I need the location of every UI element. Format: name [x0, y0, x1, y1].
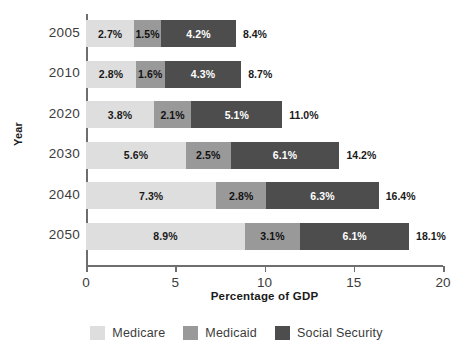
bar-segment-medicaid: 2.8%: [216, 182, 266, 209]
bar-row: 5.6%2.5%6.1%14.2%: [86, 142, 443, 169]
legend-label: Medicare: [112, 326, 165, 340]
bar-segment-medicare: 5.6%: [86, 142, 186, 169]
y-axis-tick-label: 2005: [10, 25, 80, 40]
x-axis-tick-label: 0: [66, 275, 106, 290]
bar-segment-medicare: 7.3%: [86, 182, 216, 209]
legend-swatch-icon: [275, 326, 290, 340]
legend-label: Medicaid: [205, 326, 257, 340]
bar-segment-medicare: 2.7%: [86, 20, 134, 47]
bar-segment-medicare: 2.8%: [86, 61, 136, 88]
bar-segment-social-security: 6.1%: [231, 142, 340, 169]
x-axis-tick-label: 10: [245, 275, 285, 290]
bar-row: 8.9%3.1%6.1%18.1%: [86, 223, 443, 250]
y-axis-tick-label: 2030: [10, 146, 80, 161]
chart-legend: MedicareMedicaidSocial Security: [0, 326, 473, 340]
legend-item: Social Security: [275, 326, 383, 340]
y-axis-tick-label: 2050: [10, 227, 80, 242]
bar-segment-medicaid: 2.5%: [186, 142, 231, 169]
plot-area: 051015202.7%1.5%4.2%8.4%2.8%1.6%4.3%8.7%…: [86, 14, 443, 265]
x-axis-tick-mark: [354, 266, 356, 272]
bar-segment-social-security: 4.3%: [165, 61, 242, 88]
x-axis-tick-label: 5: [155, 275, 195, 290]
bar-segment-social-security: 5.1%: [191, 101, 282, 128]
bar-row: 2.8%1.6%4.3%8.7%: [86, 61, 443, 88]
bar-segment-social-security: 6.1%: [300, 223, 409, 250]
x-axis-tick-mark: [86, 266, 88, 272]
bar-total-label: 11.0%: [282, 101, 318, 128]
bar-segment-medicare: 3.8%: [86, 101, 154, 128]
bar-segment-social-security: 6.3%: [266, 182, 378, 209]
y-axis-tick-labels: 200520102020203020402050: [8, 0, 80, 356]
x-axis-tick-label: 20: [423, 275, 463, 290]
legend-item: Medicare: [90, 326, 165, 340]
bar-total-label: 14.2%: [339, 142, 376, 169]
bar-total-label: 8.4%: [236, 20, 267, 47]
bar-row: 2.7%1.5%4.2%8.4%: [86, 20, 443, 47]
y-axis-tick-label: 2010: [10, 65, 80, 80]
bar-segment-medicaid: 3.1%: [245, 223, 300, 250]
bar-segment-social-security: 4.2%: [161, 20, 236, 47]
y-axis-tick-label: 2020: [10, 106, 80, 121]
bar-total-label: 18.1%: [409, 223, 446, 250]
bar-row: 7.3%2.8%6.3%16.4%: [86, 182, 443, 209]
bar-segment-medicaid: 2.1%: [154, 101, 191, 128]
x-axis-tick-mark: [265, 266, 267, 272]
y-axis-tick-label: 2040: [10, 187, 80, 202]
x-axis-title: Percentage of GDP: [86, 290, 443, 302]
legend-label: Social Security: [297, 326, 383, 340]
x-axis-tick-mark: [175, 266, 177, 272]
bar-total-label: 8.7%: [241, 61, 272, 88]
bar-segment-medicare: 8.9%: [86, 223, 245, 250]
legend-swatch-icon: [90, 326, 105, 340]
stacked-bar-chart: Year 200520102020203020402050 051015202.…: [0, 0, 473, 356]
bar-total-label: 16.4%: [379, 182, 416, 209]
x-axis-tick-label: 15: [334, 275, 374, 290]
x-axis-tick-mark: [443, 266, 445, 272]
bar-row: 3.8%2.1%5.1%11.0%: [86, 101, 443, 128]
bar-segment-medicaid: 1.5%: [134, 20, 161, 47]
bar-segment-medicaid: 1.6%: [136, 61, 165, 88]
legend-swatch-icon: [183, 326, 198, 340]
legend-item: Medicaid: [183, 326, 257, 340]
